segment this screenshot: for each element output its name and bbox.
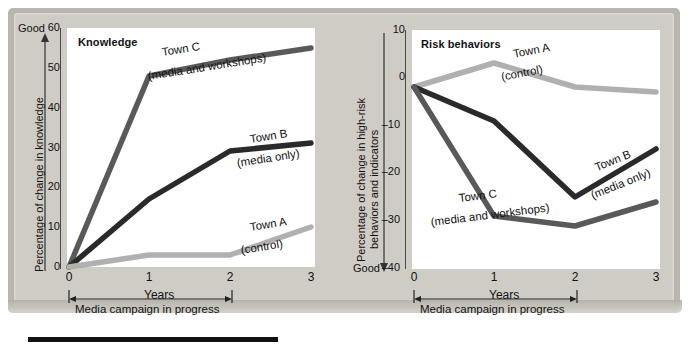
figure-root: Good Percentage of change in knowledge 6… [0, 0, 691, 357]
left-xtick-3: 3 [303, 270, 319, 284]
left-campaign-bracket [66, 288, 238, 304]
left-ytick-10: 10 [34, 220, 60, 232]
right-panel-title: Risk behaviors [421, 38, 501, 50]
right-xtick-3: 3 [648, 270, 664, 284]
left-ytick-30: 30 [34, 141, 60, 153]
right-ytick--30: –30 [374, 213, 400, 225]
right-ytick-10: 10 [379, 23, 405, 35]
left-ytick-0: 0 [34, 260, 60, 272]
right-y-axis-label-line1: Percentage of change in high-risk [355, 98, 368, 262]
panel-risk-behaviors: Percentage of change in high-risk behavi… [345, 0, 691, 357]
right-ytick--10: –10 [374, 118, 400, 130]
left-panel-title: Knowledge [78, 36, 138, 48]
right-y-axis-line [405, 30, 406, 269]
right-ytick-0: 0 [379, 70, 405, 82]
bottom-rule [28, 337, 278, 342]
left-xtick-0: 0 [61, 270, 77, 284]
panel-knowledge: Good Percentage of change in knowledge 6… [0, 0, 345, 357]
right-campaign-bracket [411, 288, 583, 304]
left-ytick-60: 60 [34, 21, 60, 33]
right-xtick-2: 2 [567, 270, 583, 284]
right-direction-arrow-icon [377, 33, 391, 273]
right-xtick-1: 1 [486, 270, 502, 284]
right-campaign-label: Media campaign in progress [420, 303, 564, 315]
left-campaign-label: Media campaign in progress [75, 303, 219, 315]
right-xtick-0: 0 [406, 270, 422, 284]
right-ytick--20: –20 [374, 165, 400, 177]
left-ytick-50: 50 [34, 61, 60, 73]
left-xtick-2: 2 [222, 270, 238, 284]
left-ytick-20: 20 [34, 180, 60, 192]
left-xtick-1: 1 [141, 270, 157, 284]
right-ytick--40: –40 [374, 261, 400, 273]
left-ytick-40: 40 [34, 101, 60, 113]
left-y-axis-line [60, 28, 61, 269]
